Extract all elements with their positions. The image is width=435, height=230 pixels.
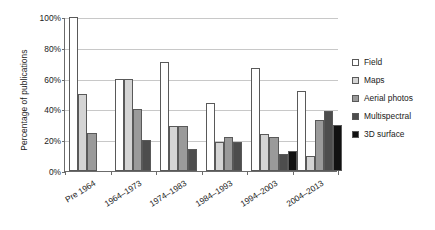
bar — [279, 154, 288, 171]
bar — [78, 94, 87, 171]
legend-swatch-icon — [352, 131, 359, 138]
bar — [142, 140, 151, 171]
bar — [69, 17, 78, 171]
y-tick-label: 40% — [44, 105, 61, 115]
legend-item[interactable]: 3D surface — [352, 125, 434, 143]
bar — [188, 149, 197, 171]
bar — [124, 79, 133, 171]
x-tick-mark — [247, 171, 248, 175]
bar — [306, 156, 315, 171]
y-tick-mark — [62, 141, 65, 142]
bar — [206, 103, 215, 171]
legend-item[interactable]: Field — [352, 53, 434, 71]
bar — [233, 142, 242, 171]
y-tick-mark — [62, 18, 65, 19]
bar — [269, 137, 278, 171]
x-tick-mark — [156, 171, 157, 175]
legend-item-label: Multispectral — [364, 111, 411, 121]
bar — [315, 120, 324, 171]
bar — [333, 125, 342, 171]
legend-item[interactable]: Multispectral — [352, 107, 434, 125]
x-tick-mark — [293, 171, 294, 175]
chart-legend: FieldMapsAerial photosMultispectral3D su… — [352, 53, 434, 143]
bar — [133, 109, 142, 171]
bar — [260, 134, 269, 171]
gridline — [65, 18, 338, 19]
x-tick-mark — [111, 171, 112, 175]
bar — [251, 68, 260, 171]
bar — [169, 126, 178, 171]
y-tick-label: 80% — [44, 44, 61, 54]
legend-swatch-icon — [352, 77, 359, 84]
x-tick-mark — [65, 171, 66, 175]
x-tick-mark — [202, 171, 203, 175]
legend-item-label: Maps — [364, 75, 384, 85]
y-axis-label: Percentage of publications — [19, 20, 29, 180]
legend-item-label: Aerial photos — [364, 93, 413, 103]
bar — [115, 79, 124, 171]
bar — [160, 62, 169, 171]
legend-item-label: Field — [364, 57, 382, 67]
bar — [324, 111, 333, 171]
gridline — [65, 80, 338, 81]
legend-item[interactable]: Maps — [352, 71, 434, 89]
bar-chart-figure: Percentage of publications 0%20%40%60%80… — [0, 0, 435, 230]
x-tick-mark — [338, 171, 339, 175]
legend-item-label: 3D surface — [364, 129, 405, 139]
plot-area: 0%20%40%60%80%100% — [64, 18, 337, 172]
legend-swatch-icon — [352, 59, 359, 66]
y-tick-label: 20% — [44, 136, 61, 146]
y-tick-label: 60% — [44, 75, 61, 85]
bar — [178, 126, 187, 171]
bar — [297, 91, 306, 171]
bar — [224, 137, 233, 171]
y-tick-label: 0% — [49, 167, 61, 177]
legend-swatch-icon — [352, 95, 359, 102]
y-tick-mark — [62, 110, 65, 111]
bar — [87, 133, 96, 172]
bar — [215, 142, 224, 171]
legend-swatch-icon — [352, 113, 359, 120]
y-tick-mark — [62, 80, 65, 81]
gridline — [65, 49, 338, 50]
legend-item[interactable]: Aerial photos — [352, 89, 434, 107]
y-tick-label: 100% — [40, 13, 61, 23]
y-tick-mark — [62, 49, 65, 50]
